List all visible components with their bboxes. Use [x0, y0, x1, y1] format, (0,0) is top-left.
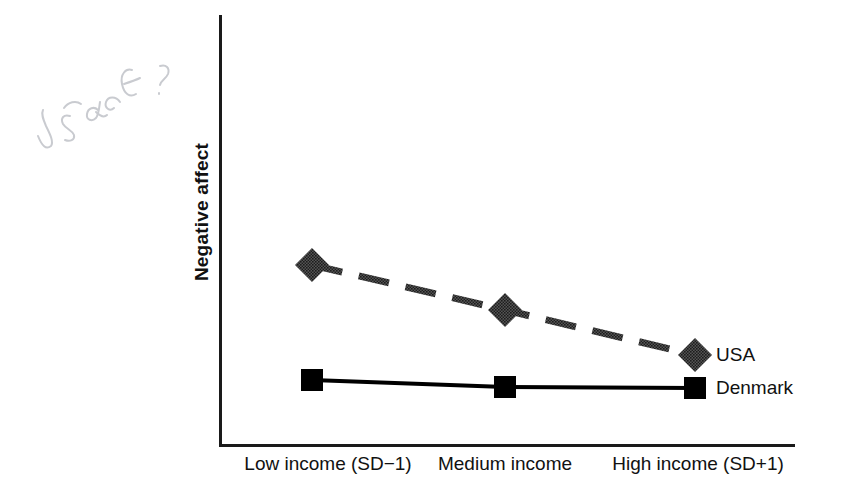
series-markers-denmark	[301, 369, 706, 399]
legend-label-usa: USA	[716, 344, 755, 366]
y-axis-line	[219, 15, 222, 447]
series-markers-usa	[295, 248, 712, 372]
chart-figure: Negative affect	[0, 0, 843, 495]
diamond-marker	[295, 248, 329, 282]
x-tick-label-medium-income: Medium income	[438, 453, 572, 475]
y-axis-title: Negative affect	[191, 102, 213, 322]
diamond-marker	[488, 293, 522, 327]
handwritten-scale-annotation	[34, 62, 194, 152]
square-marker	[684, 377, 706, 399]
x-tick-label-high-income: High income (SD+1)	[612, 453, 784, 475]
chart-plot-area	[0, 0, 843, 495]
x-tick-label-low-income: Low income (SD−1)	[244, 453, 411, 475]
square-marker	[494, 376, 516, 398]
series-line-denmark	[312, 380, 695, 388]
diamond-marker	[678, 338, 712, 372]
legend-label-denmark: Denmark	[716, 377, 793, 399]
x-axis-line	[219, 444, 795, 447]
series-line-usa	[312, 265, 695, 355]
square-marker	[301, 369, 323, 391]
